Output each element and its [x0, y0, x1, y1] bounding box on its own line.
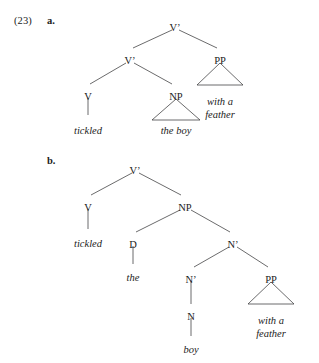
terminal-tickled: tickled: [74, 125, 102, 136]
terminal-with-a-feather-b-line: with a: [256, 315, 286, 328]
terminal-the-boy: the boy: [161, 125, 192, 136]
n-bar-lower-b: N’: [185, 274, 196, 285]
branch-vbar-to-np: [134, 63, 172, 84]
np-node-b: NP: [178, 202, 191, 213]
branch-b-np-to-nbar: [191, 210, 230, 232]
terminal-with-a-feather-b: with afeather: [256, 315, 286, 340]
pp-node: PP: [214, 55, 226, 66]
terminal-with-a-feather-b-line: feather: [256, 328, 286, 341]
n-node-b: N: [187, 311, 195, 322]
terminal-boy-b: boy: [183, 344, 198, 355]
branch-vbar-to-v: [90, 63, 126, 84]
branch-b-root-to-np: [139, 173, 181, 195]
terminal-the-b: the: [127, 272, 140, 283]
branch-b-np-to-d: [136, 210, 180, 232]
triangle-np-the-boy: [152, 99, 200, 120]
pp-node-b: PP: [265, 274, 277, 285]
terminal-with-a-feather-line: with a: [205, 96, 235, 109]
v-bar-lower: V’: [124, 55, 135, 66]
tree-lines-layer: [0, 0, 319, 363]
triangle-b-pp-with-a-feather: [248, 282, 294, 304]
branch-root-to-pp: [179, 30, 217, 48]
terminal-with-a-feather-line: feather: [205, 109, 235, 122]
branch-root-to-vbar: [133, 30, 172, 48]
np-node: NP: [169, 91, 182, 102]
v-bar-root-b: V’: [129, 165, 140, 176]
branch-b-root-to-v: [91, 173, 132, 195]
v-node-b: V: [84, 202, 92, 213]
figure-page: (23) a. b. V’V’PPVNPtickledthe boywith a…: [0, 0, 319, 363]
terminal-tickled-b: tickled: [74, 238, 102, 249]
branch-b-nbar-to-pp: [237, 247, 268, 267]
triangle-pp-with-a-feather: [197, 63, 243, 85]
v-node: V: [84, 91, 92, 102]
v-bar-root: V’: [169, 22, 180, 33]
branch-b-nbar-to-nbar: [194, 247, 229, 267]
terminal-with-a-feather: with afeather: [205, 96, 235, 121]
n-bar-upper-b: N’: [227, 239, 238, 250]
d-node-b: D: [129, 239, 137, 250]
